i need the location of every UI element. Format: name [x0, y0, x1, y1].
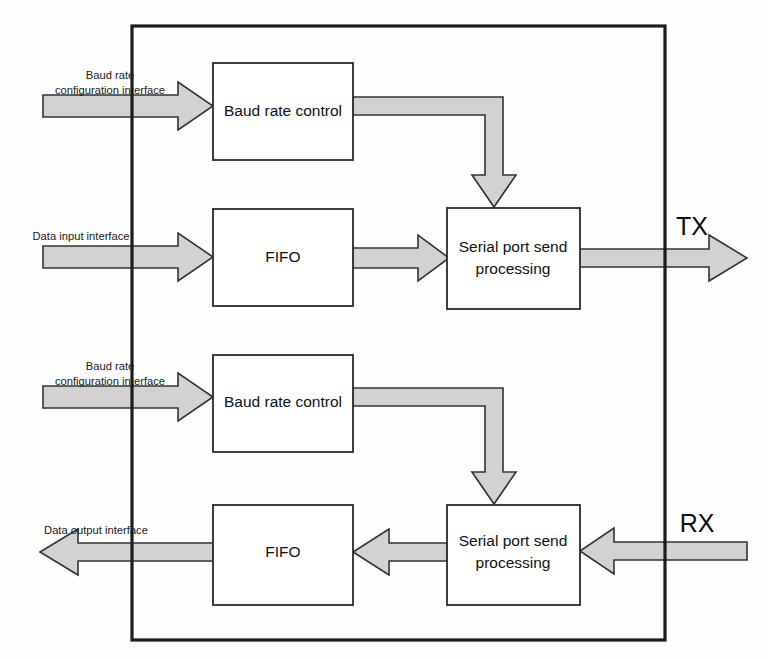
arrow-fifo-to-send-tx: [353, 235, 449, 281]
block-tx-serial-port-processing: [447, 208, 580, 309]
block-label-tx-baud-rate-control: Baud rate control: [224, 102, 342, 119]
label-data-output-interface: Data output interface: [44, 524, 148, 536]
label-tx-baud-config-line2: configuration interface: [55, 84, 165, 96]
block-diagram-canvas: Baud rate control FIFO Serial port send …: [0, 0, 768, 659]
label-rx-baud-config-line2: configuration interface: [55, 375, 165, 387]
label-rx-port: RX: [680, 509, 715, 537]
label-data-input-interface: Data input interface: [32, 230, 129, 242]
block-label-tx-serial-port-processing-line2: processing: [476, 260, 551, 277]
label-rx-baud-config-line1: Baud rate: [86, 360, 135, 372]
block-label-rx-serial-port-processing-line1: Serial port send: [459, 532, 568, 549]
arrow-baud-control-to-send-rx: [353, 388, 516, 504]
arrow-send-to-fifo-rx: [353, 529, 447, 575]
block-label-rx-fifo: FIFO: [265, 543, 300, 560]
uart-block-diagram: Baud rate control FIFO Serial port send …: [0, 0, 768, 659]
label-tx-port: TX: [676, 212, 708, 240]
arrow-send-to-tx-output: [579, 235, 747, 281]
block-label-tx-serial-port-processing-line1: Serial port send: [459, 238, 568, 255]
block-label-rx-serial-port-processing-line2: processing: [476, 554, 551, 571]
label-tx-baud-config-line1: Baud rate: [86, 69, 135, 81]
block-label-tx-fifo: FIFO: [265, 248, 300, 265]
block-label-rx-baud-rate-control: Baud rate control: [224, 393, 342, 410]
arrow-baud-control-to-send-tx: [353, 97, 516, 207]
